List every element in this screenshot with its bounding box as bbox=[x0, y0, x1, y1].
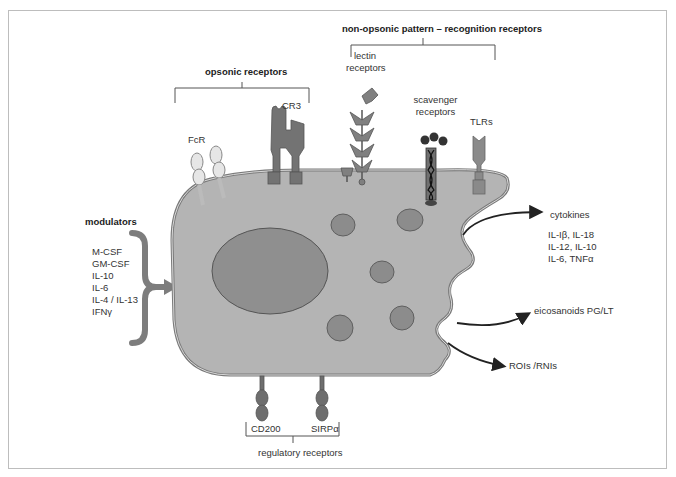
non-opsonic-label: non-opsonic pattern – recognition recept… bbox=[342, 23, 542, 35]
modulators-label: modulators bbox=[85, 216, 137, 228]
cd200-receptor bbox=[256, 376, 268, 421]
rois-arrow bbox=[448, 343, 503, 366]
lectin-label: lectin receptors bbox=[346, 50, 384, 74]
cytokines-title: cytokines bbox=[550, 209, 590, 221]
scavenger-label: scavenger receptors bbox=[413, 94, 458, 118]
eicosanoids-label: eicosanoids PG/LT bbox=[534, 305, 614, 317]
sirpa-receptor bbox=[316, 376, 328, 421]
opsonic-label: opsonic receptors bbox=[205, 66, 287, 78]
tlr-receptor bbox=[473, 136, 485, 194]
fcr-label: FcR bbox=[188, 134, 205, 146]
cr3-label: CR3 bbox=[282, 100, 301, 112]
eicosanoids-arrow bbox=[457, 314, 528, 325]
tlrs-label: TLRs bbox=[470, 116, 493, 128]
nucleus bbox=[212, 228, 328, 314]
regulatory-label: regulatory receptors bbox=[258, 447, 342, 459]
modulators-list: M-CSF GM-CSF IL-10 IL-6 IL-4 / IL-13 IFN… bbox=[92, 246, 138, 318]
cd200-label: CD200 bbox=[251, 423, 281, 435]
rois-label: ROIs /RNIs bbox=[509, 360, 557, 372]
cytokines-list: IL-Iβ, IL-18 IL-12, IL-10 IL-6, TNFα bbox=[548, 229, 597, 265]
sirpa-label: SIRPα bbox=[311, 423, 339, 435]
